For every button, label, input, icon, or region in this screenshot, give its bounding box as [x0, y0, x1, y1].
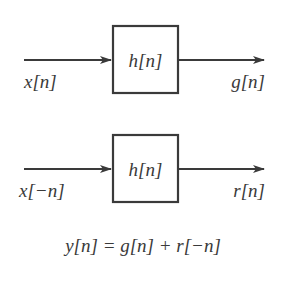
system-2: x[−n] h[n] r[n] [18, 135, 265, 202]
output-label-2: r[n] [233, 180, 265, 201]
block-diagram: x[n] h[n] g[n] x[−n] h[n] r[n] y[n] = g[… [0, 0, 284, 287]
input-label-1: x[n] [23, 71, 57, 92]
block-label-1: h[n] [129, 50, 163, 71]
system-1: x[n] h[n] g[n] [23, 26, 265, 93]
combination-equation: y[n] = g[n] + r[−n] [63, 235, 221, 256]
output-label-1: g[n] [231, 71, 265, 92]
input-label-2: x[−n] [18, 180, 65, 201]
block-label-2: h[n] [129, 159, 163, 180]
